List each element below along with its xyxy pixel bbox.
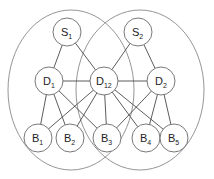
node-s1: S1 [53, 18, 81, 46]
node-b4: B4 [132, 124, 160, 152]
network-diagram: S1S2D1D12D2B1B2B3B4B5 [0, 0, 214, 179]
node-b1: B1 [24, 124, 52, 152]
node-b2: B2 [56, 124, 84, 152]
node-layer: S1S2D1D12D2B1B2B3B4B5 [24, 18, 188, 152]
node-s2: S2 [124, 18, 152, 46]
node-b3: B3 [93, 124, 121, 152]
node-d12: D12 [90, 67, 118, 95]
node-d1: D1 [35, 67, 63, 95]
node-b5: B5 [160, 124, 188, 152]
node-d2: D2 [147, 67, 175, 95]
